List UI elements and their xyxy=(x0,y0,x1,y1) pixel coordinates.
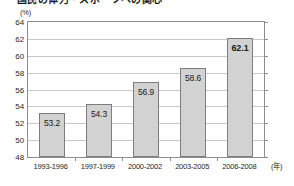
x-axis-tick-mark xyxy=(75,157,76,161)
plot-area: 48505254565860626453.254.356.958.662.1 xyxy=(27,21,265,158)
y-axis-tick-label: 62 xyxy=(15,34,24,43)
y-axis-tick-mark xyxy=(264,157,268,158)
x-axis-unit-label: (年) xyxy=(271,160,282,171)
y-axis-tick-label: 54 xyxy=(15,102,24,111)
y-axis-tick-label: 52 xyxy=(15,119,24,128)
bar: 53.2 xyxy=(39,113,65,157)
x-axis-tick-mark xyxy=(170,157,171,161)
bar-value-label: 58.6 xyxy=(185,73,201,83)
y-axis-tick-mark xyxy=(264,140,268,141)
chart-screenshot: 国民の体力・スポーツへの関心 (%) (年) 48505254565860626… xyxy=(0,0,294,186)
x-axis-tick-mark xyxy=(122,157,123,161)
x-axis-tick-mark xyxy=(217,157,218,161)
x-axis-category-label: 1993-1996 xyxy=(34,162,68,171)
y-axis-tick-mark xyxy=(264,39,268,40)
y-axis-tick-mark xyxy=(264,73,268,74)
bar-value-label: 62.1 xyxy=(231,43,248,53)
bar-value-label: 54.3 xyxy=(91,109,107,119)
bar-value-label: 56.9 xyxy=(138,87,154,97)
bar-value-label: 53.2 xyxy=(44,118,60,128)
y-axis-tick-label: 56 xyxy=(15,85,24,94)
bar: 56.9 xyxy=(133,82,159,157)
bar: 62.1 xyxy=(227,38,253,157)
page-title: 国民の体力・スポーツへの関心 xyxy=(17,0,163,5)
y-axis-tick-label: 58 xyxy=(15,68,24,77)
y-axis-tick-mark xyxy=(264,22,268,23)
x-axis-category-label: 2006-2008 xyxy=(222,162,256,171)
bar: 58.6 xyxy=(180,68,206,157)
y-axis-tick-mark xyxy=(264,123,268,124)
y-axis-tick-mark xyxy=(264,56,268,57)
chart-title-cropped: 国民の体力・スポーツへの関心 xyxy=(0,0,294,5)
x-axis-category-label: 1997-1999 xyxy=(81,162,115,171)
y-axis-tick-mark xyxy=(264,106,268,107)
x-axis-category-label: 2003-2005 xyxy=(175,162,209,171)
y-axis-unit-label: (%) xyxy=(20,8,31,17)
y-axis-tick-label: 48 xyxy=(15,153,24,162)
y-axis-tick-label: 64 xyxy=(15,18,24,27)
y-axis-tick-label: 60 xyxy=(15,51,24,60)
bar: 54.3 xyxy=(86,104,112,157)
y-axis-tick-label: 50 xyxy=(15,136,24,145)
y-axis-tick-mark xyxy=(264,90,268,91)
x-axis-category-label: 2000-2002 xyxy=(128,162,162,171)
